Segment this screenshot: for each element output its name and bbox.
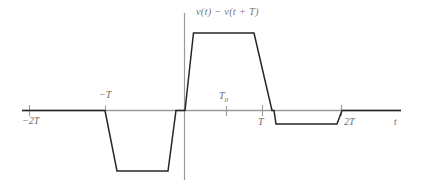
tick-label-minus-T: −T bbox=[99, 90, 111, 100]
signal-label: v(t) − v(t + T) bbox=[196, 7, 259, 18]
tick-label-T0-subscript: 0 bbox=[225, 96, 229, 104]
waveform-plot bbox=[0, 0, 422, 188]
waveform-curve bbox=[22, 33, 401, 171]
tick-label-T0: T0 bbox=[219, 91, 228, 104]
tick-label-T: T bbox=[258, 117, 264, 127]
tick-label-minus-2T: −2T bbox=[22, 116, 39, 126]
x-axis-label: t bbox=[394, 118, 397, 128]
tick-label-2T: 2T bbox=[344, 117, 355, 127]
figure-container: v(t) − v(t + T) −2T −T T0 T 2T t bbox=[0, 0, 422, 188]
